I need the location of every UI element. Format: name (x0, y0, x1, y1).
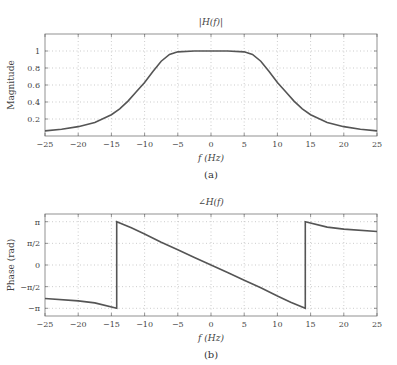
magnitude-plot: |H(f)| −25−20−15−10−505101520250.20.40.6… (6, 17, 382, 180)
x-tick-label: −15 (103, 140, 120, 149)
x-tick-label: 25 (372, 320, 382, 329)
caption-a: (a) (204, 169, 218, 180)
x-tick-label: 5 (242, 140, 247, 149)
y-tick-label: 0.4 (27, 98, 40, 107)
x-tick-label: 15 (306, 140, 316, 149)
y-tick-label: 0.8 (27, 64, 40, 73)
y-tick-label: 1 (35, 47, 40, 56)
x-tick-label: 15 (306, 320, 316, 329)
x-tick-label: −25 (37, 140, 54, 149)
x-tick-label: 0 (208, 320, 213, 329)
y-tick-label: 0.6 (27, 81, 40, 90)
magnitude-xlabel: f (Hz) (197, 153, 224, 163)
phase-xlabel: f (Hz) (197, 333, 224, 343)
x-tick-label: 10 (272, 140, 282, 149)
magnitude-ylabel: Magnitude (6, 60, 16, 110)
y-tick-label: −π/2 (20, 283, 40, 292)
x-tick-label: −10 (136, 320, 153, 329)
x-tick-label: −20 (70, 320, 87, 329)
y-tick-label: π (35, 218, 40, 227)
x-tick-label: −10 (136, 140, 153, 149)
x-tick-label: −25 (37, 320, 54, 329)
magnitude-title: |H(f)| (199, 17, 223, 28)
x-tick-label: 20 (339, 320, 349, 329)
x-tick-label: −5 (172, 320, 184, 329)
y-tick-label: 0.2 (27, 115, 40, 124)
phase-title: ∠H(f) (198, 197, 224, 207)
x-tick-label: −5 (172, 140, 184, 149)
magnitude-grid (45, 34, 377, 136)
x-tick-label: −20 (70, 140, 87, 149)
y-tick-label: π/2 (27, 239, 40, 248)
x-tick-label: 20 (339, 140, 349, 149)
y-tick-label: −π (28, 304, 40, 313)
phase-plot: ∠H(f) −25−20−15−10−50510152025−π−π/20π/2… (6, 197, 382, 360)
caption-b: (b) (204, 349, 218, 360)
x-tick-label: 5 (242, 320, 247, 329)
x-tick-label: 10 (272, 320, 282, 329)
y-tick-label: 0 (35, 261, 40, 270)
x-tick-label: −15 (103, 320, 120, 329)
x-tick-label: 25 (372, 140, 382, 149)
figure: |H(f)| −25−20−15−10−505101520250.20.40.6… (0, 0, 397, 365)
phase-ticks: −25−20−15−10−50510152025−π−π/20π/2π (20, 214, 382, 329)
x-tick-label: 0 (208, 140, 213, 149)
phase-ylabel: Phase (rad) (6, 239, 16, 291)
